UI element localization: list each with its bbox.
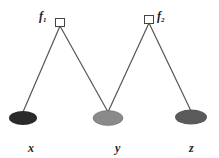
- factor-graph: f1 f2 x y z: [0, 0, 219, 158]
- factor-node-f1: [56, 19, 65, 27]
- factor-label-f1: f1: [39, 9, 47, 24]
- variable-label-x: x: [27, 141, 34, 155]
- variable-node-z: [175, 110, 207, 125]
- edge-f2-y: [108, 23, 149, 112]
- edge-f2-z: [149, 23, 191, 111]
- edge-f1-y: [60, 26, 108, 112]
- variable-label-y: y: [113, 141, 121, 155]
- variable-label-z: z: [188, 141, 194, 155]
- factor-node-f2: [145, 16, 154, 24]
- edge-f1-x: [23, 26, 60, 112]
- variable-node-y: [93, 111, 123, 126]
- factor-label-f2: f2: [157, 9, 165, 24]
- variable-node-x: [9, 111, 37, 125]
